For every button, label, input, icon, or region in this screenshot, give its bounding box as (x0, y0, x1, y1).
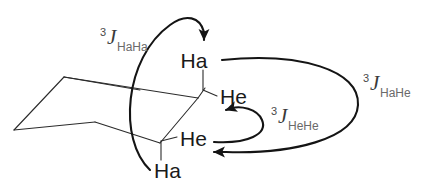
ring-bond-5 (14, 122, 95, 130)
figure-canvas: Ha He He Ha 3 J HaHa 3 J HaHe 3 J HeHe (0, 0, 432, 184)
coupling-label-hehe: 3 J HeHe (271, 104, 319, 133)
coupling-label-haha: 3 J HaHa (100, 25, 148, 54)
ring-bond-7 (64, 77, 140, 90)
coupling-label-hahe: 3 J HaHe (363, 71, 411, 100)
bond-equatorial-top (203, 90, 217, 96)
coupling-hahe-subscript: HaHe (380, 86, 411, 100)
atom-labels: Ha He He Ha (154, 49, 247, 182)
label-axial-top: Ha (181, 49, 208, 72)
ring-bond-4 (95, 122, 160, 143)
label-equatorial-top: He (220, 85, 247, 108)
coupling-hehe-subscript: HeHe (288, 119, 319, 133)
coupling-haha-subscript: HaHa (117, 40, 148, 54)
label-equatorial-bottom: He (180, 127, 207, 150)
label-axial-bottom: Ha (154, 159, 181, 182)
ring-bond-1 (14, 77, 64, 130)
cyclohexane-chair-skeleton (14, 77, 205, 143)
coupling-haha-superscript: 3 (100, 26, 106, 38)
coupling-hahe-superscript: 3 (363, 72, 369, 84)
coupling-arrow-hehe (214, 107, 263, 142)
chair-coupling-diagram: Ha He He Ha 3 J HaHa 3 J HaHe 3 J HeHe (0, 0, 432, 184)
ring-bond-6 (198, 88, 205, 98)
coupling-hehe-superscript: 3 (271, 105, 277, 117)
